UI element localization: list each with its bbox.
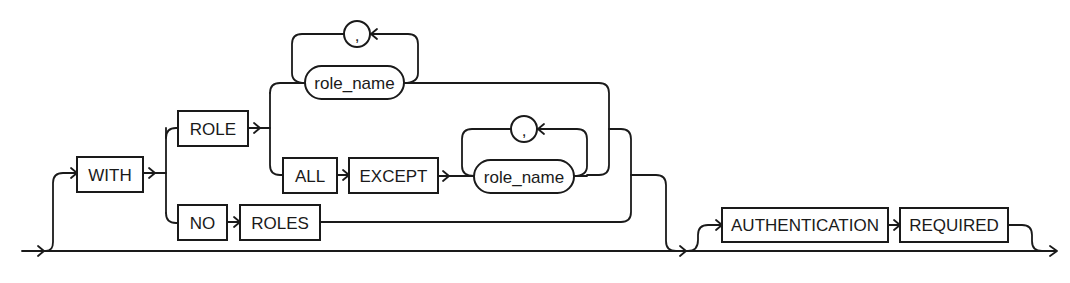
main-track <box>22 246 1057 256</box>
keyword-all: ALL <box>283 158 337 193</box>
syntax-diagram: WITH ROLE , role_name ALL EXCEPT <box>0 0 1070 283</box>
keyword-all-label: ALL <box>295 167 325 186</box>
comma-label: , <box>355 26 360 45</box>
keyword-role-label: ROLE <box>190 120 236 139</box>
keyword-no: NO <box>178 205 227 240</box>
keyword-roles-label: ROLES <box>251 214 309 233</box>
variable-role-name-2: role_name <box>474 160 574 193</box>
variable-role-name-1: role_name <box>305 66 404 99</box>
comma-label: , <box>522 121 527 140</box>
keyword-required-label: REQUIRED <box>909 216 999 235</box>
separator-comma-2: , <box>511 116 537 142</box>
keyword-except-label: EXCEPT <box>359 167 427 186</box>
keyword-role: ROLE <box>178 111 248 146</box>
role-options-track <box>248 29 609 175</box>
role-name-label: role_name <box>314 74 394 93</box>
keyword-roles: ROLES <box>240 205 320 240</box>
separator-comma-1: , <box>344 21 370 47</box>
keyword-authentication-label: AUTHENTICATION <box>731 216 879 235</box>
keyword-with-label: WITH <box>88 166 131 185</box>
keyword-except: EXCEPT <box>349 158 438 193</box>
role-name-label: role_name <box>484 168 564 187</box>
keyword-required: REQUIRED <box>900 208 1008 242</box>
keyword-authentication: AUTHENTICATION <box>722 208 888 242</box>
keyword-no-label: NO <box>190 214 216 233</box>
keyword-with: WITH <box>77 157 143 192</box>
